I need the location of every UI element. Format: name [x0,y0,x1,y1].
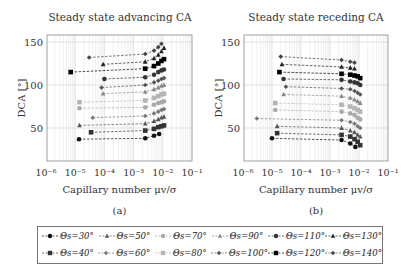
triangle-marker-icon [325,232,341,240]
x-tick-label: 10⁻³ [320,167,341,178]
legend-label: Θs=120° [286,248,325,258]
x-axis-label: Capillary number μv/σ [259,184,373,195]
diamond-marker-icon [325,249,341,257]
chart-title: Steady state receding CA [248,11,384,23]
square-marker-icon [268,249,284,257]
legend-item: Θs=30° [42,231,99,241]
legend-label: Θs=110° [286,231,325,241]
legend-item: Θs=40° [42,248,98,258]
square-marker-icon [155,249,171,257]
series [270,136,358,149]
legend-item: Θs=50° [99,231,156,241]
diamond-marker-icon [211,249,227,257]
y-tick-label: 150 [221,37,240,48]
square-marker-icon [42,249,58,257]
legend-label: Θs=80° [173,248,207,258]
x-tick-label: 10⁻⁴ [94,167,115,178]
y-tick-label: 150 [24,37,43,48]
legend-label: Θs=90° [230,231,264,241]
x-tick-label: 10⁻⁶ [233,167,254,178]
chart-title: Steady state advancing CA [48,11,192,23]
y-axis-label: DCA [°] [213,78,224,117]
chart-panel-2: Steady state receding CA5010015010⁻⁶10⁻⁵… [213,11,399,216]
series [284,84,363,96]
x-tick-label: 10⁻⁵ [262,167,283,178]
y-axis-label: DCA [°] [16,78,27,117]
legend-item: Θs=110° [268,231,325,241]
legend-item: Θs=90° [212,231,269,241]
x-tick-label: 10⁻⁴ [291,167,312,178]
legend-item: Θs=130° [325,231,382,241]
legend-item: Θs=60° [98,248,154,258]
circle-marker-icon [155,232,171,240]
y-tick-label: 50 [30,123,43,134]
legend-label: Θs=40° [60,248,94,258]
series [102,67,166,81]
legend-item: Θs=80° [155,248,211,258]
x-tick-label: 10⁻⁶ [36,167,57,178]
x-tick-label: 10⁻⁵ [65,167,86,178]
legend-item: Θs=120° [268,248,325,258]
x-tick-label: 10⁻¹ [182,167,203,178]
legend-label: Θs=30° [60,231,94,241]
circle-marker-icon [268,232,284,240]
legend-label: Θs=100° [229,248,268,258]
legend: Θs=30°Θs=50°Θs=70°Θs=90°Θs=110°Θs=130° Θ… [37,226,383,264]
legend-item: Θs=70° [155,231,212,241]
x-tick-label: 10⁻² [152,167,173,178]
x-tick-label: 10⁻¹ [378,167,399,178]
x-tick-label: 10⁻³ [123,167,144,178]
panel-caption: (a) [113,205,127,216]
legend-label: Θs=50° [117,231,151,241]
legend-label: Θs=60° [116,248,150,258]
legend-item: Θs=100° [211,248,268,258]
series [278,54,356,65]
chart-panel-1: Steady state advancing CA5010015010⁻⁶10⁻… [16,11,203,216]
legend-row-1: Θs=30°Θs=50°Θs=70°Θs=90°Θs=110°Θs=130° [38,227,382,244]
legend-label: Θs=70° [173,231,207,241]
triangle-marker-icon [99,232,115,240]
circle-marker-icon [42,232,58,240]
x-axis-label: Capillary number μv/σ [62,184,176,195]
panel-caption: (b) [309,205,323,216]
series [87,41,164,59]
y-tick-label: 50 [227,123,240,134]
diamond-marker-icon [98,249,114,257]
x-tick-label: 10⁻² [349,167,370,178]
legend-label: Θs=130° [343,231,382,241]
triangle-marker-icon [212,232,228,240]
legend-label: Θs=140° [343,248,382,258]
legend-row-2: Θs=40°Θs=60°Θs=80°Θs=100°Θs=120°Θs=140° [38,244,382,261]
legend-item: Θs=140° [325,248,382,258]
